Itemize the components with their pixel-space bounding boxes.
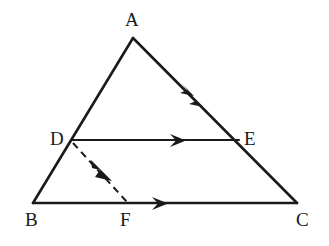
vertex-label-d: D	[50, 129, 64, 148]
figure-svg	[0, 0, 329, 246]
segment-ab	[33, 38, 133, 203]
vertex-label-c: C	[296, 210, 309, 229]
vertex-label-a: A	[125, 10, 139, 29]
vertex-label-f: F	[120, 210, 131, 229]
vertex-label-e: E	[244, 129, 256, 148]
vertex-label-b: B	[25, 210, 38, 229]
segment-ac	[133, 38, 297, 203]
arrow-marker-df	[91, 160, 112, 181]
geometry-diagram: A B C D E F	[0, 0, 329, 246]
